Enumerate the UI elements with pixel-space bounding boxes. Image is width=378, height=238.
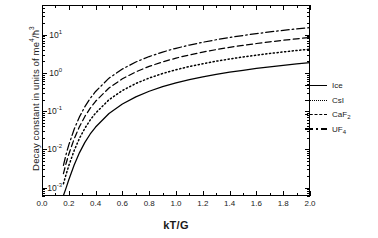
x-major-tick xyxy=(176,5,177,10)
legend-label: CaF2 xyxy=(332,110,350,119)
y-tick-label: 10-2 xyxy=(22,144,62,154)
x-minor-tick xyxy=(189,193,190,196)
legend-item[interactable]: CaF2 xyxy=(305,109,377,120)
y-minor-tick xyxy=(42,131,45,132)
x-major-tick xyxy=(310,5,311,10)
y-minor-tick xyxy=(307,155,310,156)
y-minor-tick xyxy=(42,61,45,62)
y-minor-tick xyxy=(42,46,45,47)
y-minor-tick xyxy=(307,16,310,17)
y-minor-tick xyxy=(42,176,45,177)
y-minor-tick xyxy=(42,81,45,82)
legend-line-swatch xyxy=(305,100,327,101)
y-tick-label: 10-3 xyxy=(22,183,62,193)
y-minor-tick xyxy=(307,165,310,166)
x-major-tick xyxy=(203,191,204,196)
y-minor-tick xyxy=(42,55,45,56)
x-minor-tick xyxy=(216,193,217,196)
y-minor-tick xyxy=(307,50,310,51)
x-major-tick xyxy=(283,5,284,10)
x-major-tick xyxy=(149,191,150,196)
x-major-tick xyxy=(283,191,284,196)
y-minor-tick xyxy=(307,12,310,13)
x-major-tick xyxy=(69,191,70,196)
x-major-tick xyxy=(230,191,231,196)
y-minor-tick xyxy=(42,100,45,101)
x-major-tick xyxy=(42,5,43,10)
y-minor-tick xyxy=(307,75,310,76)
x-major-tick xyxy=(122,191,123,196)
y-tick-label: 10-1 xyxy=(22,106,62,116)
axes-frame xyxy=(42,5,310,196)
x-minor-tick xyxy=(55,193,56,196)
y-minor-tick xyxy=(42,161,45,162)
y-minor-tick xyxy=(42,120,45,121)
y-minor-tick xyxy=(42,88,45,89)
y-minor-tick xyxy=(42,84,45,85)
x-minor-tick xyxy=(109,5,110,8)
y-minor-tick xyxy=(307,55,310,56)
x-major-tick xyxy=(149,5,150,10)
y-minor-tick xyxy=(42,12,45,13)
x-minor-tick xyxy=(163,193,164,196)
y-minor-tick xyxy=(307,196,310,197)
y-minor-tick xyxy=(42,41,45,42)
y-tick-label: 100 xyxy=(22,68,62,78)
y-minor-tick xyxy=(42,50,45,51)
y-minor-tick xyxy=(307,161,310,162)
x-minor-tick xyxy=(136,193,137,196)
legend-label: CsI xyxy=(332,96,344,105)
y-minor-tick xyxy=(307,153,310,154)
x-major-tick xyxy=(256,191,257,196)
x-major-tick xyxy=(256,5,257,10)
x-minor-tick xyxy=(270,193,271,196)
y-minor-tick xyxy=(307,61,310,62)
y-minor-tick xyxy=(42,43,45,44)
x-major-tick xyxy=(96,5,97,10)
y-minor-tick xyxy=(307,46,310,47)
x-minor-tick xyxy=(109,193,110,196)
y-minor-tick xyxy=(307,158,310,159)
y-minor-tick xyxy=(42,138,45,139)
y-minor-tick xyxy=(307,77,310,78)
y-minor-tick xyxy=(307,41,310,42)
y-minor-tick xyxy=(307,43,310,44)
x-minor-tick xyxy=(297,193,298,196)
legend-item[interactable]: CsI xyxy=(305,95,377,106)
legend: IceCsICaF2UF4 xyxy=(305,80,377,138)
x-minor-tick xyxy=(82,5,83,8)
y-minor-tick xyxy=(307,23,310,24)
chart-figure: Decay constant in units of me4/ħ3 kT/G 1… xyxy=(0,0,378,238)
y-minor-tick xyxy=(42,16,45,17)
legend-line-swatch xyxy=(305,128,327,130)
x-major-tick xyxy=(203,5,204,10)
y-tick-label: 101 xyxy=(22,30,62,40)
x-tick-label: 2.0 xyxy=(293,199,327,208)
x-minor-tick xyxy=(136,5,137,8)
legend-line-swatch xyxy=(305,85,327,86)
x-minor-tick xyxy=(243,5,244,8)
x-minor-tick xyxy=(243,193,244,196)
y-minor-tick xyxy=(42,196,45,197)
legend-item[interactable]: Ice xyxy=(305,80,377,91)
y-minor-tick xyxy=(42,169,45,170)
x-major-tick xyxy=(69,5,70,10)
x-major-tick xyxy=(176,191,177,196)
x-minor-tick xyxy=(82,193,83,196)
x-minor-tick xyxy=(297,5,298,8)
y-minor-tick xyxy=(307,176,310,177)
y-minor-tick xyxy=(42,79,45,80)
x-minor-tick xyxy=(55,5,56,8)
y-minor-tick xyxy=(42,117,45,118)
y-minor-tick xyxy=(42,123,45,124)
x-axis-label: kT/G xyxy=(42,219,310,231)
x-minor-tick xyxy=(216,5,217,8)
legend-label: Ice xyxy=(332,81,343,90)
legend-item[interactable]: UF4 xyxy=(305,124,377,135)
x-major-tick xyxy=(310,191,311,196)
plot-area xyxy=(42,5,310,196)
y-minor-tick xyxy=(42,126,45,127)
y-minor-tick xyxy=(307,169,310,170)
legend-label: UF4 xyxy=(332,125,346,134)
y-minor-tick xyxy=(42,155,45,156)
